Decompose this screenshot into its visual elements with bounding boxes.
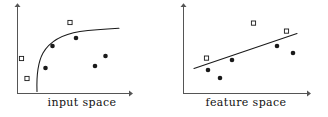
data-point-open-square [25, 76, 29, 80]
panel-feature-space: feature space [164, 0, 328, 117]
data-point-filled-circle [291, 51, 296, 56]
data-point-open-square [204, 56, 208, 60]
data-point-filled-circle [206, 68, 211, 73]
y-axis-arrow-icon [15, 3, 21, 7]
data-point-filled-circle [275, 44, 280, 49]
input-space-axis-label: input space [0, 96, 164, 110]
data-point-filled-circle [230, 58, 235, 63]
data-point-open-square [284, 29, 288, 33]
two-panel-scatter-figure: input space feature space [0, 0, 328, 117]
data-point-open-square [68, 20, 72, 24]
data-point-filled-circle [50, 44, 55, 49]
data-point-filled-circle [43, 66, 48, 71]
data-point-filled-circle [103, 54, 108, 59]
data-point-filled-circle [218, 76, 223, 81]
data-point-filled-circle [74, 36, 79, 41]
linear-fit-line [194, 34, 297, 69]
data-point-open-square [19, 56, 23, 60]
data-point-filled-circle [93, 64, 98, 69]
panel-input-space: input space [0, 0, 164, 117]
data-point-open-square [251, 21, 255, 25]
feature-space-axis-label: feature space [164, 96, 328, 110]
y-axis-arrow-icon [181, 3, 187, 7]
